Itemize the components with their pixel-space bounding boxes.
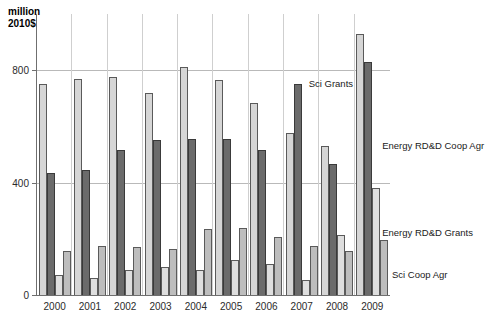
series-label: Sci Coop Agr bbox=[392, 269, 447, 280]
bar bbox=[215, 80, 223, 295]
y-tick-label: 800 bbox=[12, 65, 29, 76]
bar-group: 2003 bbox=[143, 14, 178, 295]
bar-group: 2006 bbox=[249, 14, 284, 295]
bar bbox=[133, 247, 141, 295]
bar bbox=[356, 34, 364, 295]
x-tick-label: 2005 bbox=[213, 295, 248, 312]
bar bbox=[321, 146, 329, 295]
bar bbox=[231, 260, 239, 295]
x-tick-label: 2001 bbox=[72, 295, 107, 312]
bar bbox=[125, 270, 133, 295]
bar bbox=[258, 150, 266, 295]
bar bbox=[380, 240, 388, 295]
x-tick-label: 2007 bbox=[284, 295, 319, 312]
bar bbox=[39, 84, 47, 295]
bar bbox=[302, 280, 310, 295]
x-tick-label: 2008 bbox=[319, 295, 354, 312]
bar-group: 2005 bbox=[213, 14, 248, 295]
bar-group: 2001 bbox=[72, 14, 107, 295]
bar bbox=[345, 251, 353, 295]
bar bbox=[145, 93, 153, 295]
y-tick-mark bbox=[32, 183, 36, 184]
bar-group: 2002 bbox=[108, 14, 143, 295]
y-tick-label: 400 bbox=[12, 177, 29, 188]
y-tick-mark bbox=[32, 295, 36, 296]
bar bbox=[90, 278, 98, 295]
bar bbox=[337, 235, 345, 295]
bar bbox=[250, 103, 258, 295]
bar bbox=[196, 270, 204, 295]
bar bbox=[274, 237, 282, 295]
bar bbox=[310, 246, 318, 295]
bar bbox=[294, 84, 302, 295]
series-label: Sci Grants bbox=[309, 78, 353, 89]
series-label: Energy RD&D Coop Agr bbox=[382, 140, 484, 151]
bar bbox=[82, 170, 90, 295]
bar-group: 2007 bbox=[284, 14, 319, 295]
bar bbox=[161, 267, 169, 295]
y-tick-mark bbox=[32, 70, 36, 71]
bar bbox=[204, 229, 212, 295]
bar bbox=[109, 77, 117, 295]
bar bbox=[47, 173, 55, 295]
bar bbox=[169, 249, 177, 295]
bar bbox=[74, 79, 82, 295]
series-label: Energy RD&D Grants bbox=[382, 227, 473, 238]
x-tick-label: 2006 bbox=[249, 295, 284, 312]
bar-group: 2000 bbox=[37, 14, 72, 295]
bar bbox=[117, 150, 125, 295]
bar bbox=[188, 139, 196, 295]
x-tick-label: 2009 bbox=[355, 295, 390, 312]
bar bbox=[55, 275, 63, 295]
bar-group: 2009 bbox=[355, 14, 390, 295]
bar-group: 2004 bbox=[178, 14, 213, 295]
bar bbox=[286, 133, 294, 295]
bar bbox=[63, 251, 71, 295]
plot-area: 0400800 20002001200220032004200520062007… bbox=[36, 14, 390, 296]
bar bbox=[98, 246, 106, 295]
bar bbox=[180, 67, 188, 295]
bar bbox=[266, 264, 274, 295]
bar-chart: million 2010$ 0400800 200020012002200320… bbox=[0, 0, 490, 327]
bar bbox=[372, 188, 380, 295]
bar bbox=[329, 164, 337, 295]
x-tick-label: 2003 bbox=[143, 295, 178, 312]
bar-group: 2008 bbox=[319, 14, 354, 295]
x-tick-label: 2000 bbox=[37, 295, 72, 312]
bar bbox=[239, 228, 247, 295]
bar-groups: 2000200120022003200420052006200720082009 bbox=[37, 14, 390, 295]
x-tick-label: 2004 bbox=[178, 295, 213, 312]
x-tick-label: 2002 bbox=[108, 295, 143, 312]
bar bbox=[223, 139, 231, 295]
bar bbox=[364, 62, 372, 295]
y-tick-label: 0 bbox=[23, 290, 29, 301]
bar bbox=[153, 140, 161, 295]
